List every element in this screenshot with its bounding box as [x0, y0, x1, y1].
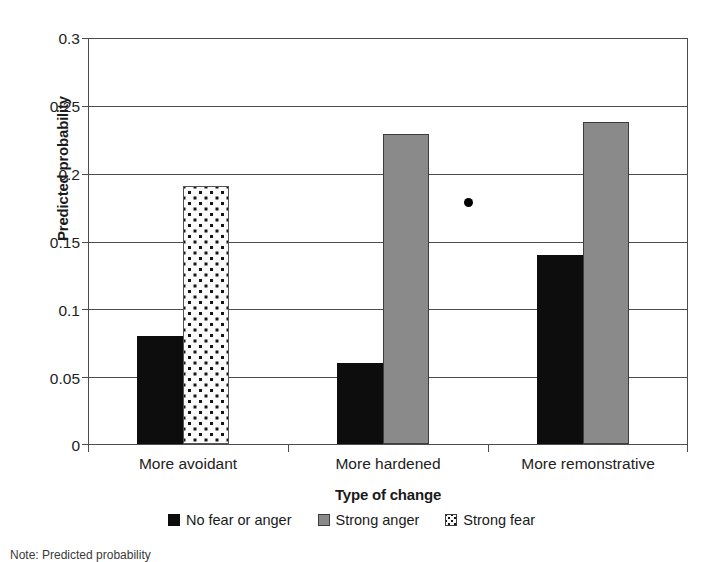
y-tick-label: 0.2 — [34, 167, 80, 183]
figure-note: Note: Predicted probability — [10, 548, 700, 562]
y-tick-label: 0.05 — [34, 371, 80, 387]
y-tick-label: 0.1 — [34, 303, 80, 319]
bar-no-fear-or-anger — [137, 336, 183, 444]
x-axis-category-separators — [88, 445, 688, 452]
bar-strong-fear — [183, 186, 229, 444]
bar-group-more-hardened — [289, 39, 489, 444]
x-axis-category-labels: More avoidant More hardened More remonst… — [88, 455, 688, 479]
bar-group-more-avoidant — [89, 39, 289, 444]
legend-item-no-fear-or-anger: No fear or anger — [168, 512, 292, 528]
bar-strong-anger — [383, 134, 429, 444]
category-label-more-hardened: More hardened — [288, 455, 488, 473]
x-axis-title: Type of change — [88, 486, 688, 503]
category-label-more-remonstrative: More remonstrative — [488, 455, 688, 473]
solid-gray-square-icon — [318, 514, 330, 526]
y-tick-label: 0.25 — [34, 99, 80, 115]
category-separator — [88, 445, 89, 452]
category-separator — [488, 445, 489, 452]
y-tick-label: 0 — [34, 438, 80, 454]
plot-area — [88, 38, 688, 445]
y-tick-label: 0.15 — [34, 235, 80, 251]
category-label-more-avoidant: More avoidant — [88, 455, 288, 473]
solid-black-square-icon — [168, 514, 180, 526]
bar-group-more-remonstrative — [489, 39, 689, 444]
dotted-pattern-square-icon — [445, 514, 457, 526]
category-separator — [288, 445, 289, 452]
bar-no-fear-or-anger — [537, 255, 583, 444]
bar-strong-anger — [583, 122, 629, 444]
legend-label: No fear or anger — [186, 512, 292, 528]
y-axis-tick-labels: 0.3 0.25 0.2 0.15 0.1 0.05 0 — [16, 0, 80, 558]
y-tick-label: 0.3 — [34, 31, 80, 47]
bar-no-fear-or-anger — [337, 363, 383, 444]
legend-item-strong-anger: Strong anger — [318, 512, 420, 528]
category-separator — [687, 445, 688, 452]
chart-legend: No fear or anger Strong anger Strong fea… — [0, 512, 703, 528]
legend-label: Strong anger — [336, 512, 420, 528]
legend-label: Strong fear — [463, 512, 535, 528]
legend-item-strong-fear: Strong fear — [445, 512, 535, 528]
point-marker-strong-fear — [464, 198, 473, 207]
